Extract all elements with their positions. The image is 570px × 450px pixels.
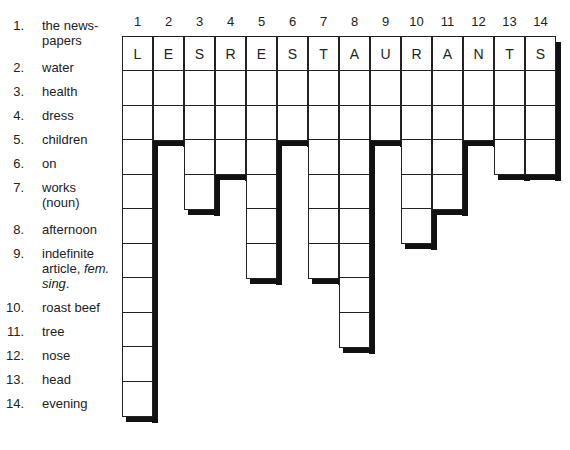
grid-cell[interactable]	[370, 105, 401, 141]
grid-cell[interactable]	[525, 105, 556, 141]
grid-cell[interactable]	[246, 105, 277, 141]
grid-cell[interactable]: R	[401, 36, 432, 72]
grid-cell[interactable]	[401, 105, 432, 141]
clue-text: on	[42, 156, 56, 171]
grid-cell[interactable]	[246, 208, 277, 244]
grid-cell[interactable]	[339, 174, 370, 210]
grid-cell[interactable]	[463, 70, 494, 106]
column-number: 11	[432, 14, 463, 29]
grid-cell[interactable]	[122, 381, 153, 417]
column-2: E	[153, 37, 184, 141]
grid-cell[interactable]	[153, 105, 184, 141]
grid-cell[interactable]: A	[339, 36, 370, 72]
grid-cell[interactable]: E	[153, 36, 184, 72]
grid-cell[interactable]	[122, 70, 153, 106]
grid-cell[interactable]	[401, 174, 432, 210]
grid-cell[interactable]: S	[525, 36, 556, 72]
column-9: U	[370, 37, 401, 141]
grid-cell[interactable]	[339, 277, 370, 313]
column-number: 8	[339, 14, 370, 29]
clue-text: evening	[42, 396, 88, 411]
grid-cell[interactable]: S	[277, 36, 308, 72]
grid-cell[interactable]	[401, 208, 432, 244]
grid-cell[interactable]	[184, 174, 215, 210]
grid-cell[interactable]: U	[370, 36, 401, 72]
column-7: T	[308, 37, 339, 279]
column-8: A	[339, 37, 370, 348]
grid-cell[interactable]	[215, 139, 246, 175]
column-14: S	[525, 37, 556, 175]
grid-cell[interactable]: L	[122, 36, 153, 72]
grid-cell[interactable]	[122, 243, 153, 279]
column-number: 7	[308, 14, 339, 29]
grid-cell[interactable]	[277, 105, 308, 141]
column-number: 1	[122, 14, 153, 29]
grid-cell[interactable]	[122, 277, 153, 313]
grid-cell[interactable]	[122, 346, 153, 382]
grid-cell[interactable]	[308, 208, 339, 244]
grid-cell[interactable]	[525, 139, 556, 175]
grid-cell[interactable]	[308, 105, 339, 141]
grid-cell[interactable]	[494, 70, 525, 106]
clue-number: 9.	[4, 246, 24, 261]
clue-number: 3.	[4, 84, 24, 99]
grid-cell[interactable]: A	[432, 36, 463, 72]
grid-cell[interactable]	[122, 105, 153, 141]
grid-cell[interactable]	[122, 312, 153, 348]
grid-cell[interactable]	[246, 174, 277, 210]
grid-cell[interactable]	[432, 174, 463, 210]
grid-cell[interactable]	[401, 139, 432, 175]
grid-cell[interactable]	[339, 139, 370, 175]
grid-cell[interactable]	[308, 70, 339, 106]
grid-cell[interactable]	[277, 70, 308, 106]
grid-cell[interactable]	[308, 243, 339, 279]
grid-cell[interactable]	[184, 105, 215, 141]
grid-cell[interactable]	[432, 105, 463, 141]
grid-cell[interactable]	[184, 139, 215, 175]
column-number: 2	[153, 14, 184, 29]
grid-cell[interactable]	[339, 70, 370, 106]
grid-cell[interactable]	[339, 243, 370, 279]
grid-cell[interactable]	[308, 139, 339, 175]
grid-cell[interactable]	[339, 105, 370, 141]
grid-cell[interactable]	[246, 70, 277, 106]
grid-cell[interactable]	[122, 208, 153, 244]
grid-cell[interactable]	[122, 174, 153, 210]
grid-cell[interactable]: S	[184, 36, 215, 72]
grid-cell[interactable]	[463, 105, 494, 141]
grid-cell[interactable]: T	[494, 36, 525, 72]
grid-cell[interactable]	[494, 139, 525, 175]
grid-cell[interactable]	[432, 70, 463, 106]
clue-number: 2.	[4, 60, 24, 75]
grid-cell[interactable]	[339, 312, 370, 348]
column-number: 9	[370, 14, 401, 29]
grid-cell[interactable]: N	[463, 36, 494, 72]
grid-cell[interactable]	[432, 139, 463, 175]
grid-cell[interactable]	[122, 139, 153, 175]
grid-cell[interactable]	[184, 70, 215, 106]
column-number: 3	[184, 14, 215, 29]
column-number: 5	[246, 14, 277, 29]
grid-cell[interactable]	[370, 70, 401, 106]
grid-cell[interactable]	[153, 70, 184, 106]
clue-number: 12.	[4, 348, 24, 363]
column-number: 10	[401, 14, 432, 29]
grid-cell[interactable]: R	[215, 36, 246, 72]
grid-cell[interactable]	[215, 70, 246, 106]
grid-cell[interactable]: E	[246, 36, 277, 72]
grid-cell[interactable]	[308, 174, 339, 210]
grid-cell[interactable]	[401, 70, 432, 106]
grid-cell[interactable]	[339, 208, 370, 244]
grid-cell[interactable]	[525, 70, 556, 106]
grid-cell[interactable]: T	[308, 36, 339, 72]
clue-number: 6.	[4, 156, 24, 171]
column-4: R	[215, 37, 246, 175]
grid-cell[interactable]	[246, 243, 277, 279]
clue-text: indefinitearticle, fem.sing.	[42, 246, 109, 291]
clue-text: head	[42, 372, 71, 387]
grid-cell[interactable]	[246, 139, 277, 175]
grid-cell[interactable]	[494, 105, 525, 141]
clue-number: 14.	[4, 396, 24, 411]
column-13: T	[494, 37, 525, 175]
grid-cell[interactable]	[215, 105, 246, 141]
